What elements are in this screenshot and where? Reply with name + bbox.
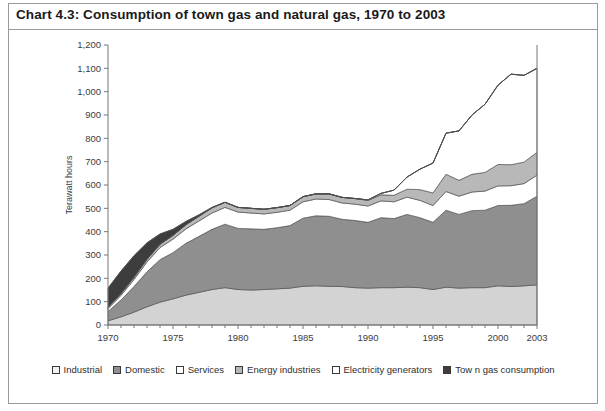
legend-item-0[interactable]: Industrial	[52, 365, 103, 375]
y-tick-label-2: 200	[85, 273, 101, 284]
x-tick-label-4: 1990	[357, 332, 378, 343]
y-tick-label-5: 500	[85, 203, 101, 214]
y-tick-label-0: 0	[96, 319, 101, 330]
legend-swatch-industrial	[52, 366, 60, 374]
x-tick-label-2: 1980	[227, 332, 248, 343]
legend-swatch-town-gas-consumption	[443, 366, 451, 374]
legend-label-3: Energy industries	[247, 365, 320, 375]
legend-item-5[interactable]: Tow n gas consumption	[443, 365, 554, 375]
y-tick-label-6: 600	[85, 179, 101, 190]
legend-label-5: Tow n gas consumption	[455, 365, 554, 375]
legend-label-1: Domestic	[125, 365, 165, 375]
legend-item-2[interactable]: Services	[176, 365, 224, 375]
x-tick-label-5: 1995	[422, 332, 443, 343]
legend-swatch-services	[176, 366, 184, 374]
legend-item-4[interactable]: Electricity generators	[332, 365, 433, 375]
y-tick-label-9: 900	[85, 109, 101, 120]
legend-swatch-electricity-generators	[332, 366, 340, 374]
y-tick-label-12: 1,200	[77, 39, 101, 50]
x-tick-label-0: 1970	[97, 332, 118, 343]
legend-swatch-domestic	[113, 366, 121, 374]
plot-area: 01002003004005006007008009001,0001,1001,…	[0, 0, 605, 411]
x-tick-label-6: 2000	[487, 332, 508, 343]
legend-item-1[interactable]: Domestic	[113, 365, 165, 375]
y-tick-label-7: 700	[85, 156, 101, 167]
y-tick-label-10: 1,000	[77, 86, 101, 97]
legend-swatch-energy-industries	[235, 366, 243, 374]
chart-legend: IndustrialDomesticServicesEnergy industr…	[8, 360, 598, 380]
x-tick-label-3: 1985	[292, 332, 313, 343]
legend-item-3[interactable]: Energy industries	[235, 365, 320, 375]
y-tick-label-3: 300	[85, 249, 101, 260]
legend-label-2: Services	[188, 365, 224, 375]
legend-label-4: Electricity generators	[344, 365, 433, 375]
legend-label-0: Industrial	[64, 365, 103, 375]
chart-figure: Chart 4.3: Consumption of town gas and n…	[0, 0, 605, 411]
x-tick-label-1: 1975	[162, 332, 183, 343]
y-tick-label-4: 400	[85, 226, 101, 237]
y-tick-label-1: 100	[85, 296, 101, 307]
x-tick-label-7: 2003	[526, 332, 547, 343]
y-axis-title: Terawatt hours	[64, 155, 74, 215]
y-tick-label-8: 800	[85, 133, 101, 144]
y-tick-label-11: 1,100	[77, 63, 101, 74]
